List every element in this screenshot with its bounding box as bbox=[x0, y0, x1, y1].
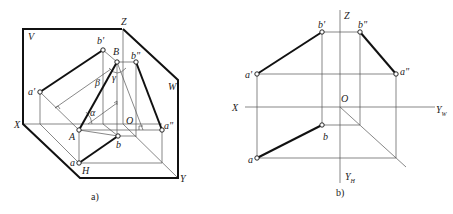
label-a-dprime-b: a" bbox=[400, 66, 410, 77]
label-b-a: b bbox=[116, 139, 121, 150]
construction-lines-b bbox=[245, 10, 435, 183]
label-plane-h: H bbox=[81, 165, 90, 176]
label-origin-b: O bbox=[341, 93, 348, 104]
label-b-prime-a: b' bbox=[97, 35, 105, 46]
label-plane-w: W bbox=[168, 81, 178, 92]
label-a-b: a bbox=[248, 154, 253, 165]
label-origin-a: O bbox=[126, 115, 133, 126]
label-a-a: a bbox=[70, 157, 75, 168]
label-b-b: b bbox=[323, 131, 328, 142]
label-gamma: γ bbox=[112, 72, 117, 83]
label-a-prime-b: a' bbox=[245, 69, 253, 80]
figure-b: Z X O YW YH b' b" a' a" b a b) bbox=[231, 10, 448, 199]
label-axis-z-a: Z bbox=[121, 16, 127, 27]
label-axis-yw: YW bbox=[436, 104, 448, 117]
projection-diagram: V W H Z X Y O a' b' B b" A a" b a α β γ … bbox=[0, 0, 453, 214]
label-a-dprime-a: a" bbox=[164, 120, 174, 131]
label-b-prime-b: b' bbox=[318, 19, 326, 30]
figure-a: V W H Z X Y O a' b' B b" A a" b a α β γ … bbox=[13, 16, 187, 203]
label-beta: β bbox=[94, 77, 100, 88]
label-b-dprime-a: b" bbox=[131, 50, 141, 61]
label-axis-x-a: X bbox=[13, 119, 21, 130]
label-alpha: α bbox=[90, 107, 96, 118]
label-axis-yh: YH bbox=[345, 171, 356, 184]
label-a-prime-a: a' bbox=[28, 86, 36, 97]
caption-a: a) bbox=[91, 191, 99, 203]
label-b-dprime-b: b" bbox=[358, 19, 368, 30]
label-B: B bbox=[113, 46, 119, 57]
label-axis-z-b: Z bbox=[344, 10, 350, 21]
caption-b: b) bbox=[336, 187, 344, 199]
label-axis-y-a: Y bbox=[180, 173, 187, 184]
label-A: A bbox=[68, 131, 76, 142]
label-axis-x-b: X bbox=[231, 102, 239, 113]
label-plane-v: V bbox=[28, 31, 36, 42]
